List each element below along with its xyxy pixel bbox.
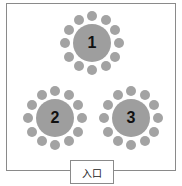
seat [60, 38, 70, 48]
seat [101, 15, 111, 25]
seat [37, 90, 47, 100]
seat [64, 25, 74, 35]
seat [74, 61, 84, 71]
seat [149, 100, 159, 110]
seat [103, 127, 113, 137]
seat [87, 65, 97, 75]
seat [113, 90, 123, 100]
seat [101, 61, 111, 71]
seat [37, 136, 47, 146]
table-1: 1 [73, 24, 111, 62]
seat [27, 127, 37, 137]
seat [114, 38, 124, 48]
seat [110, 25, 120, 35]
seat [140, 136, 150, 146]
seat [149, 127, 159, 137]
seat [23, 113, 33, 123]
seat [87, 11, 97, 21]
table-2: 2 [36, 99, 74, 137]
entrance-label: 入口 [70, 160, 114, 184]
seat [140, 90, 150, 100]
seat [103, 100, 113, 110]
seat [99, 113, 109, 123]
seat [50, 140, 60, 150]
seat [74, 15, 84, 25]
table-3: 3 [112, 99, 150, 137]
seat [64, 52, 74, 62]
seat [27, 100, 37, 110]
seat [50, 86, 60, 96]
seat [126, 86, 136, 96]
seat [73, 127, 83, 137]
seat [64, 136, 74, 146]
seat [73, 100, 83, 110]
seat [126, 140, 136, 150]
seat [110, 52, 120, 62]
seat [64, 90, 74, 100]
seat [153, 113, 163, 123]
seat [77, 113, 87, 123]
seat [113, 136, 123, 146]
